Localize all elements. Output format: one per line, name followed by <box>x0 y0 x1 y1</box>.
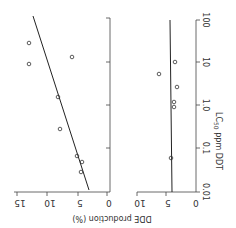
upper-ytick-0: 0 <box>106 198 112 208</box>
lower-ytick-5: 5 <box>165 198 171 208</box>
y-axis-label: DDE production (%) <box>72 214 151 223</box>
xtick-0.01: 0.01 <box>201 183 210 201</box>
xtick-100: 100 <box>201 12 210 27</box>
upper-panel: 15 10 5 0 <box>14 16 112 208</box>
xtick-1: 1.0 <box>201 99 210 112</box>
upper-points <box>27 41 84 174</box>
upper-ytick-10: 10 <box>44 198 56 208</box>
rotated-scatter-figure: 15 10 5 0 10 5 0 <box>0 0 236 228</box>
upper-ytick-15: 15 <box>14 198 25 208</box>
lower-ytick-0: 0 <box>193 198 199 208</box>
lower-fit-line <box>170 20 172 192</box>
lower-ytick-10: 10 <box>134 198 146 208</box>
x-tick-labels: 100 10 1.0 0.1 0.01 <box>201 12 210 201</box>
lower-points <box>157 60 179 160</box>
x-axis-label: LC50 ppm DDT <box>213 112 223 170</box>
upper-ytick-5: 5 <box>77 198 83 208</box>
xtick-10: 10 <box>201 57 210 67</box>
upper-fit-line <box>33 16 89 190</box>
xtick-0.1: 0.1 <box>201 142 210 155</box>
lower-panel: 10 5 0 <box>134 20 200 208</box>
